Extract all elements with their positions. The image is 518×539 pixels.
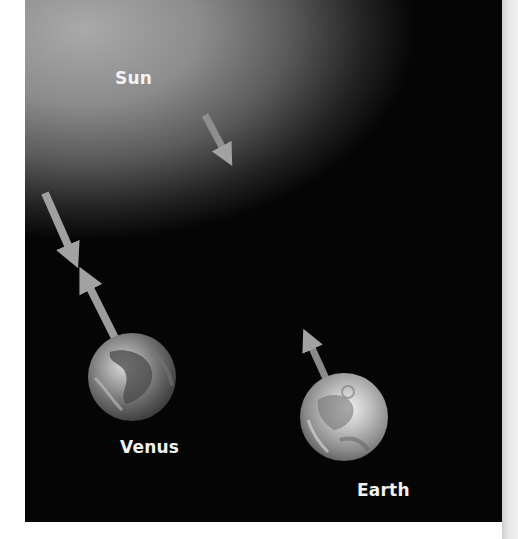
- earth-label: Earth: [357, 480, 410, 500]
- sunlight-arrow-top-icon: [205, 115, 228, 158]
- diagram-graphics: [0, 0, 518, 539]
- sun-label: Sun: [115, 68, 152, 88]
- venus-planet-icon: [88, 333, 176, 421]
- venus-label: Venus: [120, 437, 179, 457]
- sunlight-arrow-to-venus-icon: [45, 193, 74, 259]
- earth-planet-icon: [300, 373, 388, 461]
- earth-reflected-arrow-icon: [307, 337, 328, 383]
- venus-reflected-arrow-icon: [84, 276, 117, 342]
